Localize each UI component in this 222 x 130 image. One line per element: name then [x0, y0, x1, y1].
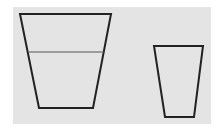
cups-diagram	[0, 0, 222, 130]
large-cup	[20, 14, 111, 108]
small-cup	[154, 46, 203, 117]
